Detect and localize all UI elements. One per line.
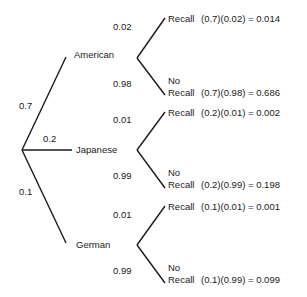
probability-label-german-norecall: 0.99 — [113, 265, 132, 276]
leaf-german-norecall: No Recall(0.1)(0.99) = 0.099 — [168, 262, 280, 285]
leaf-outcome-line1-japanese-norecall: No — [168, 167, 280, 179]
leaf-outcome-japanese-recall: Recall — [168, 107, 201, 119]
probability-label-german-recall: 0.01 — [113, 209, 132, 220]
node-label-german: German — [76, 239, 110, 250]
leaf-expression-american-norecall: (0.7)(0.98) = 0.686 — [201, 87, 280, 99]
probability-label-japanese-norecall: 0.99 — [113, 170, 132, 181]
leaf-outcome-line1-german-norecall: No — [168, 262, 280, 274]
leaf-american-norecall: No Recall(0.7)(0.98) = 0.686 — [168, 75, 280, 98]
leaf-outcome-german-recall: Recall — [168, 201, 201, 213]
leaf-expression-german-norecall: (0.1)(0.99) = 0.099 — [201, 274, 280, 286]
leaf-japanese-norecall: No Recall(0.2)(0.99) = 0.198 — [168, 167, 280, 190]
leaf-japanese-recall: Recall(0.2)(0.01) = 0.002 — [168, 107, 280, 119]
leaf-expression-german-recall: (0.1)(0.01) = 0.001 — [201, 201, 280, 213]
branch-japanese-recall — [137, 112, 165, 150]
tree-branch-lines — [0, 0, 307, 297]
branch-german-recall — [137, 206, 165, 245]
leaf-outcome-line2-german-norecall: Recall — [168, 274, 201, 286]
probability-tree-diagram: 0.7 0.2 0.1 American Japanese German 0.0… — [0, 0, 307, 297]
leaf-outcome-line1-american-norecall: No — [168, 75, 280, 87]
branch-american-recall — [137, 18, 165, 58]
leaf-american-recall: Recall(0.7)(0.02) = 0.014 — [168, 13, 280, 25]
node-label-american: American — [74, 49, 114, 60]
branch-american-norecall — [137, 58, 165, 95]
probability-label-american: 0.7 — [19, 100, 32, 111]
probability-label-japanese: 0.2 — [43, 133, 56, 144]
leaf-outcome-line2-american-norecall: Recall — [168, 87, 201, 99]
leaf-expression-american-recall: (0.7)(0.02) = 0.014 — [201, 13, 280, 25]
leaf-outcome-american-recall: Recall — [168, 13, 201, 25]
leaf-german-recall: Recall(0.1)(0.01) = 0.001 — [168, 201, 280, 213]
leaf-outcome-line2-japanese-norecall: Recall — [168, 179, 201, 191]
probability-label-american-norecall: 0.98 — [113, 78, 132, 89]
leaf-expression-japanese-norecall: (0.2)(0.99) = 0.198 — [201, 179, 280, 191]
probability-label-japanese-recall: 0.01 — [113, 114, 132, 125]
branch-japanese-norecall — [137, 150, 165, 188]
node-label-japanese: Japanese — [76, 144, 117, 155]
probability-label-german: 0.1 — [19, 186, 32, 197]
leaf-expression-japanese-recall: (0.2)(0.01) = 0.002 — [201, 107, 280, 119]
branch-german-norecall — [137, 245, 165, 283]
probability-label-american-recall: 0.02 — [113, 21, 132, 32]
